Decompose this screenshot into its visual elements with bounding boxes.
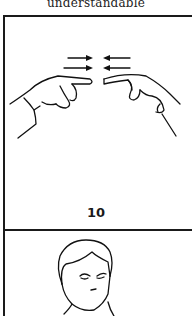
person-face-portrait-icon	[0, 0, 192, 316]
